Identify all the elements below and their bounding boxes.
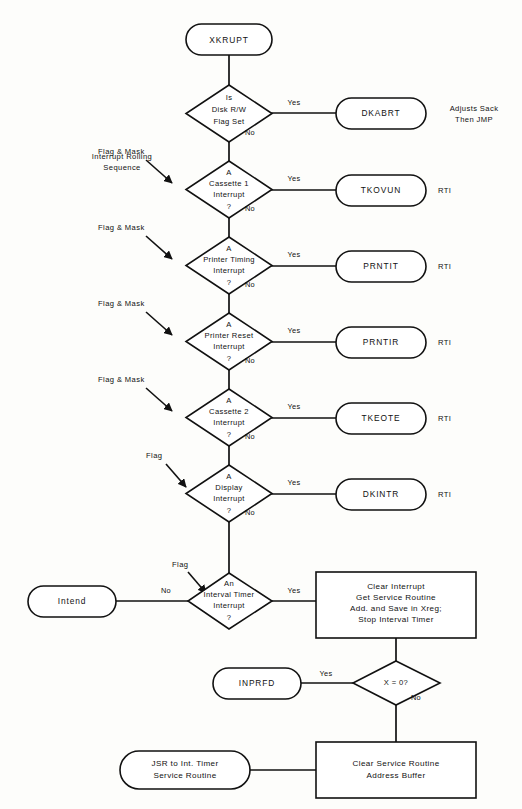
edge-label-no-printer-timing: No	[245, 280, 255, 289]
decision-printer-timing-line-2: Printer Timing	[203, 255, 255, 264]
decision-disk-rw-line-2: Disk R/W	[212, 105, 247, 114]
decision-printer-timing-line-3: Interrupt	[213, 266, 245, 275]
decision-printer-timing-line-1: A	[226, 244, 232, 253]
decision-cassette-1-line-4: ?	[227, 202, 232, 211]
note-rolling-sequence-line-2: Sequence	[103, 163, 140, 172]
note-dkabrt-line-1: Adjusts Sack	[450, 104, 499, 113]
process-clear-interrupt-line-2: Get Service Routine	[356, 593, 436, 602]
edge-label-no-interval-timer: No	[161, 586, 171, 595]
terminal-dkabrt-label: DKABRT	[361, 108, 400, 118]
decision-disk-rw-line-3: Flag Set	[213, 117, 245, 126]
decision-interval-timer-line-4: ?	[227, 613, 232, 622]
decision-display-line-3: Interrupt	[213, 494, 245, 503]
decision-interval-timer-line-1: An	[224, 579, 234, 588]
note-rolling-sequence-line-1: Interrupt Rolling	[92, 152, 152, 161]
annotation-flag-mask-printer-timing: Flag & Mask	[98, 223, 145, 232]
terminal-prntir[interactable]: PRNTIR	[336, 327, 426, 358]
terminal-intend-label: Intend	[58, 596, 87, 606]
terminal-prntit[interactable]: PRNTIT	[336, 251, 426, 282]
process-clear-address-buffer-line-1: Clear Service Routine	[352, 759, 439, 768]
terminal-tkovun[interactable]: TKOVUN	[336, 175, 426, 206]
terminal-tkovun-label: TKOVUN	[361, 185, 401, 195]
edge-label-no-cassette-1: No	[245, 204, 255, 213]
flowchart-canvas: XKRUPT Is Disk R/W Flag Set Yes No A Cas…	[0, 0, 522, 809]
edge-label-no-display: No	[245, 508, 255, 517]
decision-interval-timer-line-2: Interval Timer	[204, 590, 255, 599]
decision-display-line-2: Display	[215, 483, 242, 492]
process-clear-address-buffer-line-2: Address Buffer	[367, 771, 426, 780]
terminal-jsr-line-2: Service Routine	[153, 771, 216, 780]
flag-mask-arrow-cassette2	[146, 388, 172, 411]
decision-printer-reset[interactable]: A Printer Reset Interrupt ?	[186, 313, 272, 370]
terminal-dkintr-label: DKINTR	[363, 489, 400, 499]
note-prntir-rti: RTI	[438, 338, 451, 347]
decision-cassette-2[interactable]: A Cassette 2 Interrupt ?	[186, 389, 272, 446]
entry-annotation-arrows	[146, 160, 206, 593]
flag-mask-arrow-printer-timing	[146, 236, 172, 259]
decision-printer-timing-line-4: ?	[227, 278, 232, 287]
terminal-prntit-label: PRNTIT	[363, 261, 399, 271]
decision-printer-reset-line-1: A	[226, 320, 232, 329]
edge-label-no-cassette-2: No	[245, 432, 255, 441]
decision-interval-timer-line-3: Interrupt	[213, 601, 245, 610]
flag-arrow-display	[166, 464, 186, 487]
terminal-dkintr[interactable]: DKINTR	[336, 479, 426, 510]
edge-label-no-disk-rw: No	[245, 128, 255, 137]
decision-cassette-1-line-1: A	[226, 168, 232, 177]
process-clear-interrupt[interactable]: Clear Interrupt Get Service Routine Add.…	[316, 572, 476, 638]
decision-x-equals-zero-label: X = 0?	[384, 678, 408, 687]
process-clear-address-buffer[interactable]: Clear Service Routine Address Buffer	[316, 742, 476, 798]
decision-disk-rw[interactable]: Is Disk R/W Flag Set	[186, 85, 272, 142]
annotation-flag-mask-cassette-2: Flag & Mask	[98, 375, 145, 384]
edge-label-no-printer-reset: No	[245, 356, 255, 365]
terminal-intend[interactable]: Intend	[28, 586, 116, 617]
decision-cassette-2-line-1: A	[226, 396, 232, 405]
flowchart-page: XKRUPT Is Disk R/W Flag Set Yes No A Cas…	[0, 0, 522, 809]
edge-label-yes-x-equals-zero: Yes	[319, 669, 332, 678]
edge-label-yes-disk-rw: Yes	[287, 98, 300, 107]
note-prntit-rti: RTI	[438, 262, 451, 271]
flag-mask-arrow-cassette1	[146, 160, 172, 183]
decision-disk-rw-line-1: Is	[226, 93, 233, 102]
edge-label-yes-printer-timing: Yes	[287, 250, 300, 259]
flag-mask-arrow-printer-reset	[146, 312, 172, 335]
note-tkeote-rti: RTI	[438, 414, 451, 423]
edge-label-yes-cassette-2: Yes	[287, 402, 300, 411]
terminal-inprfd[interactable]: INPRFD	[213, 668, 301, 699]
process-clear-interrupt-line-1: Clear Interrupt	[367, 582, 425, 591]
process-clear-interrupt-line-4: Stop Interval Timer	[358, 615, 434, 624]
decision-x-equals-zero[interactable]: X = 0?	[353, 661, 440, 705]
terminal-dkabrt[interactable]: DKABRT	[336, 98, 426, 129]
decision-cassette-2-line-3: Interrupt	[213, 418, 245, 427]
terminal-jsr-service-routine[interactable]: JSR to Int. Timer Service Routine	[120, 751, 250, 789]
edge-label-yes-cassette-1: Yes	[287, 174, 300, 183]
annotation-flag-mask-printer-reset: Flag & Mask	[98, 299, 145, 308]
note-dkintr-rti: RTI	[438, 490, 451, 499]
decision-display[interactable]: A Display Interrupt ?	[186, 465, 272, 522]
edge-label-yes-display: Yes	[287, 478, 300, 487]
decision-display-line-1: A	[226, 472, 232, 481]
process-clear-interrupt-line-3: Add. and Save in Xreg;	[350, 604, 442, 613]
terminal-tkeote[interactable]: TKEOTE	[336, 403, 426, 434]
start-terminal[interactable]: XKRUPT	[186, 24, 272, 55]
edge-label-no-x-equals-zero: No	[411, 693, 421, 702]
decision-printer-reset-line-3: Interrupt	[213, 342, 245, 351]
terminal-inprfd-label: INPRFD	[239, 678, 276, 688]
decision-cassette-2-line-4: ?	[227, 430, 232, 439]
note-tkovun-rti: RTI	[438, 186, 451, 195]
decision-cassette-1-line-3: Interrupt	[213, 190, 245, 199]
edge-label-yes-printer-reset: Yes	[287, 326, 300, 335]
terminal-jsr-line-1: JSR to Int. Timer	[151, 759, 218, 768]
note-dkabrt-line-2: Then JMP	[455, 115, 493, 124]
decision-printer-timing[interactable]: A Printer Timing Interrupt ?	[186, 237, 272, 294]
decision-cassette-1[interactable]: A Cassette 1 Interrupt ?	[186, 161, 272, 218]
decision-cassette-1-line-2: Cassette 1	[209, 179, 249, 188]
annotation-flag-display: Flag	[146, 451, 162, 460]
decision-printer-reset-line-2: Printer Reset	[205, 331, 254, 340]
decision-interval-timer[interactable]: An Interval Timer Interrupt ?	[188, 573, 272, 629]
edge-label-yes-interval-timer: Yes	[287, 586, 300, 595]
decision-printer-reset-line-4: ?	[227, 354, 232, 363]
terminal-tkeote-label: TKEOTE	[362, 413, 401, 423]
start-terminal-label: XKRUPT	[209, 35, 248, 45]
annotation-flag-interval-timer: Flag	[172, 560, 188, 569]
